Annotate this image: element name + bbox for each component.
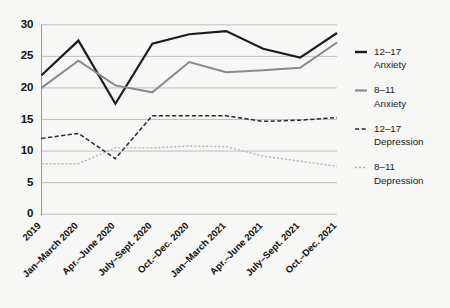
legend-label-age-1: 8–11 [374,84,395,95]
series-line-1 [42,42,338,92]
legend-label-condition-3: Depression [374,175,424,186]
chart-legend: 12–17Anxiety8–11Anxiety12–17Depression8–… [355,46,424,186]
data-series-group [42,31,338,166]
x-axis-tick-label: 2019 [20,220,43,243]
legend-label-age-2: 12–17 [374,123,401,134]
y-axis-tick-label: 5 [27,176,34,188]
y-axis-tick-labels: 051015202530 [21,18,34,219]
chart-svg: 051015202530 2019Jan–March 2020Apr.–June… [0,0,450,308]
series-line-3 [42,146,338,166]
y-axis-tick-label: 0 [27,207,33,219]
anxiety-depression-line-chart: 051015202530 2019Jan–March 2020Apr.–June… [0,0,450,308]
y-axis-tick-label: 20 [21,81,34,93]
y-axis-tick-label: 15 [21,113,34,125]
y-axis-tick-label: 30 [21,18,34,30]
legend-label-condition-1: Anxiety [374,98,406,109]
legend-label-age-3: 8–11 [374,161,395,172]
y-axis-tick-label: 10 [21,144,34,156]
y-axis-tick-label: 25 [21,49,34,61]
x-axis-tick-labels: 2019Jan–March 2020Apr.–June 2020July–Sep… [20,219,339,279]
legend-label-condition-2: Depression [374,136,424,147]
legend-label-age-0: 12–17 [374,46,401,57]
series-line-2 [42,116,338,159]
legend-label-condition-0: Anxiety [374,59,406,70]
